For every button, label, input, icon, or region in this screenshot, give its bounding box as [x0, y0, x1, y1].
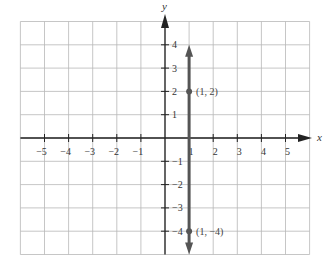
- points: (1, 2)(1, −4): [186, 86, 223, 238]
- axes: [20, 14, 312, 255]
- series-arrow-down: [185, 243, 193, 255]
- y-tick-label: 3: [172, 63, 177, 74]
- x-axis-label: x: [316, 131, 322, 143]
- x-tick-label: 4: [261, 146, 266, 157]
- data-point: [186, 228, 192, 234]
- y-tick-label: −4: [172, 226, 183, 237]
- x-tick-label: 3: [237, 146, 242, 157]
- x-tick-label: −3: [84, 146, 95, 157]
- y-tick-label: −2: [172, 179, 183, 190]
- data-point-label: (1, 2): [196, 86, 218, 98]
- x-tick-label: 5: [285, 146, 290, 157]
- y-tick-label: −1: [172, 156, 183, 167]
- x-tick-label: −2: [108, 146, 119, 157]
- y-tick-label: 2: [172, 86, 177, 97]
- series-arrow-up: [185, 45, 193, 57]
- y-tick-label: −3: [172, 202, 183, 213]
- coordinate-plane: −5−4−3−2−112345−4−3−2−11234 (1, 2)(1, −4…: [0, 0, 332, 269]
- y-axis-arrow: [161, 14, 169, 28]
- y-axis-label: y: [161, 0, 167, 12]
- data-point: [186, 88, 192, 94]
- data-point-label: (1, −4): [196, 226, 223, 238]
- x-tick-label: 2: [213, 146, 218, 157]
- y-tick-label: 4: [172, 39, 177, 50]
- y-tick-label: 1: [172, 109, 177, 120]
- x-tick-label: −5: [36, 146, 47, 157]
- x-tick-label: −1: [133, 146, 144, 157]
- x-tick-label: −4: [60, 146, 71, 157]
